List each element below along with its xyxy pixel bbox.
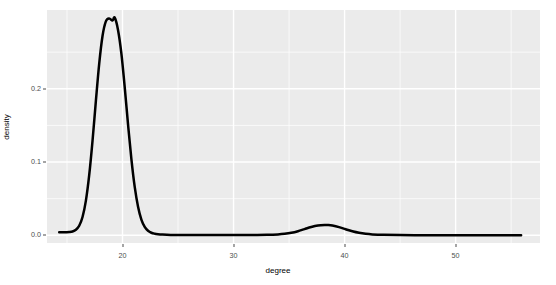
x-tick-label: 40 bbox=[341, 252, 349, 259]
x-tick-label: 30 bbox=[230, 252, 238, 259]
x-tick-label: 20 bbox=[119, 252, 127, 259]
x-tick-mark bbox=[455, 244, 456, 247]
density-plot: 0.00.10.2 20304050 degree density bbox=[0, 0, 556, 285]
density-curve bbox=[59, 17, 521, 235]
y-tick-mark bbox=[43, 88, 46, 89]
y-tick-label: 0.2 bbox=[31, 85, 41, 92]
y-tick-mark bbox=[43, 162, 46, 163]
x-tick-mark bbox=[233, 244, 234, 247]
x-axis-title: degree bbox=[0, 266, 556, 275]
y-tick-label: 0.0 bbox=[31, 232, 41, 239]
y-axis-title: density bbox=[2, 114, 11, 139]
density-curve-layer bbox=[47, 10, 540, 243]
x-tick-mark bbox=[344, 244, 345, 247]
y-tick-label: 0.1 bbox=[31, 158, 41, 165]
plot-panel bbox=[47, 10, 540, 243]
y-tick-mark bbox=[43, 235, 46, 236]
x-tick-label: 50 bbox=[452, 252, 460, 259]
x-tick-mark bbox=[122, 244, 123, 247]
